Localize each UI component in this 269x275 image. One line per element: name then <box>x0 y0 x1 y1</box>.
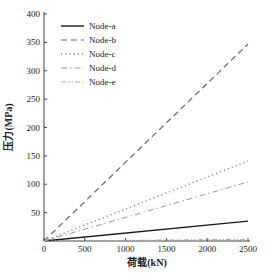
y-tick-label: 50 <box>31 208 41 218</box>
legend: Node-aNode-bNode-cNode-dNode-e <box>61 21 116 87</box>
legend-label: Node-a <box>89 21 116 31</box>
y-axis-label: 压力(MPa) <box>2 103 15 150</box>
x-tick-label: 2500 <box>239 244 258 254</box>
series-line-node-b <box>44 44 248 241</box>
legend-label: Node-e <box>89 77 116 87</box>
y-tick-label: 350 <box>27 37 41 47</box>
y-tick-label: 250 <box>27 94 41 104</box>
x-tick-label: 500 <box>78 244 92 254</box>
axes <box>44 12 250 241</box>
x-tick-label: 1500 <box>157 244 176 254</box>
x-tick-label: 1000 <box>117 244 136 254</box>
legend-label: Node-d <box>89 63 116 73</box>
series-lines <box>44 44 248 241</box>
y-tick-label: 100 <box>27 179 41 189</box>
legend-label: Node-b <box>89 35 116 45</box>
series-line-node-a <box>44 221 248 241</box>
x-tick-label: 0 <box>42 244 47 254</box>
y-tick-label: 150 <box>27 151 41 161</box>
y-tick-label: 200 <box>27 123 41 133</box>
line-chart: 50100150200250300350400 0500100015002000… <box>0 0 269 275</box>
series-line-node-c <box>44 161 248 241</box>
legend-label: Node-c <box>89 49 116 59</box>
x-axis-label: 荷载(kN) <box>126 256 166 269</box>
x-tick-label: 2000 <box>198 244 217 254</box>
y-tick-label: 300 <box>27 66 41 76</box>
y-tick-label: 400 <box>27 9 41 19</box>
